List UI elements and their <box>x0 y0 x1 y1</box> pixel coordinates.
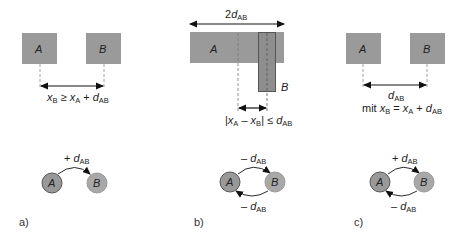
edge-top-label: + dAB <box>64 152 90 166</box>
node-a-label: A <box>375 176 383 188</box>
constraint-diagram: A B xB ≥ xA + dAB + dAB A B a) 2dAB A B … <box>0 0 468 239</box>
box-b-label: B <box>99 43 106 55</box>
edge-top-label: – dAB <box>241 152 266 166</box>
edge-a-to-b <box>388 167 419 174</box>
box-a-label: A <box>358 43 366 55</box>
panel-label-a: a) <box>19 216 29 228</box>
panel-c: A B dAB mit xB = xA + dAB + dAB A B – dA… <box>346 33 445 228</box>
edge-top-label: + dAB <box>392 152 418 166</box>
node-b-label: B <box>93 177 100 189</box>
box-b-label: B <box>281 81 288 93</box>
box-b-label: B <box>423 43 430 55</box>
edge-a-to-b <box>58 168 90 175</box>
node-b-label: B <box>420 176 427 188</box>
edge-bottom-label: – dAB <box>391 200 416 214</box>
node-a-label: A <box>225 176 233 188</box>
panel-label-b: b) <box>194 216 204 228</box>
edge-b-to-a <box>386 191 417 196</box>
edge-b-to-a <box>236 191 268 196</box>
edge-a-to-b <box>238 167 270 174</box>
box-a-label: A <box>34 43 42 55</box>
constraint-label: mit xB = xA + dAB <box>362 102 442 116</box>
node-b-label: B <box>271 176 278 188</box>
panel-b: 2dAB A B |xA – xB| ≤ dAB – dAB A B – dAB… <box>190 8 292 228</box>
constraint-label: xB ≥ xA + dAB <box>46 91 109 105</box>
box-b <box>259 33 276 92</box>
edge-bottom-label: – dAB <box>241 200 266 214</box>
box-a-label: A <box>209 43 217 55</box>
constraint-label: |xA – xB| ≤ dAB <box>225 114 292 128</box>
node-a-label: A <box>47 177 55 189</box>
distance-label: dAB <box>388 89 404 103</box>
panel-a: A B xB ≥ xA + dAB + dAB A B a) <box>19 33 121 228</box>
panel-label-c: c) <box>354 216 363 228</box>
top-span-label: 2dAB <box>225 8 247 22</box>
